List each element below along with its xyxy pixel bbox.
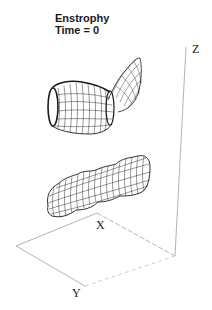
upper-tube-body-outline bbox=[52, 81, 110, 92]
lower-tube-mesh bbox=[48, 156, 150, 217]
floor-edge-left bbox=[16, 213, 97, 246]
upper-vortex-tube bbox=[48, 58, 141, 134]
floor-edge-back bbox=[97, 213, 175, 256]
z-axis-label: Z bbox=[192, 43, 199, 55]
z-axis-line bbox=[175, 47, 186, 256]
axes-frame bbox=[16, 47, 186, 286]
floor-edge-front bbox=[16, 246, 85, 286]
upper-tube-rise-mesh bbox=[112, 60, 141, 108]
lower-vortex-tube bbox=[47, 155, 150, 217]
upper-tube-left-cap bbox=[48, 88, 58, 126]
enstrophy-figure: Enstrophy Time = 0 bbox=[0, 0, 212, 310]
floor-edge-right bbox=[85, 256, 175, 286]
lower-tube-outline bbox=[47, 155, 150, 216]
x-axis-label: X bbox=[96, 219, 105, 231]
y-axis-label: Y bbox=[72, 287, 81, 299]
upper-tube-body-mesh bbox=[55, 83, 113, 134]
plot-canvas bbox=[0, 0, 212, 310]
